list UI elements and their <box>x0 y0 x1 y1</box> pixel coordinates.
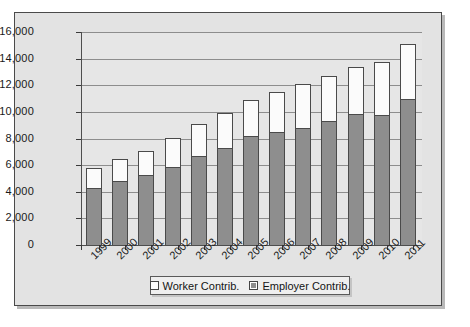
bar-segment-employer[interactable] <box>295 128 311 245</box>
bar-group[interactable] <box>321 76 337 245</box>
bar-group[interactable] <box>112 159 128 245</box>
bar-group[interactable] <box>191 124 207 245</box>
y-axis-tick-label: 10,000 <box>0 105 34 117</box>
bar-group[interactable] <box>138 151 154 245</box>
y-axis-tick-label: 4,000 <box>0 185 34 197</box>
bar-series-container <box>81 32 421 245</box>
legend-item-employer: Employer Contrib. <box>249 280 350 292</box>
bar-group[interactable] <box>165 138 181 245</box>
bar-segment-worker[interactable] <box>191 124 207 156</box>
bar-group[interactable] <box>243 100 259 245</box>
bar-group[interactable] <box>217 113 233 245</box>
bar-group[interactable] <box>348 67 364 245</box>
bar-segment-worker[interactable] <box>295 84 311 128</box>
bar-segment-worker[interactable] <box>112 159 128 181</box>
bar-segment-employer[interactable] <box>348 114 364 245</box>
bar-segment-employer[interactable] <box>217 148 233 245</box>
bar-segment-worker[interactable] <box>86 168 102 189</box>
chart-page: 02,0004,0006,0008,00010,00012,00014,0001… <box>0 0 470 327</box>
chart-frame: 02,0004,0006,0008,00010,00012,00014,0001… <box>14 12 442 306</box>
employer-swatch-icon <box>249 281 258 290</box>
y-axis-tick-label: 14,000 <box>0 52 34 64</box>
legend-label-employer: Employer Contrib. <box>262 280 350 292</box>
bar-segment-worker[interactable] <box>138 151 154 175</box>
bar-segment-worker[interactable] <box>269 92 285 132</box>
y-axis-tick-label: 0 <box>0 238 34 250</box>
bar-segment-worker[interactable] <box>165 138 181 166</box>
chart-legend: Worker Contrib. Employer Contrib. <box>150 276 350 295</box>
bar-segment-employer[interactable] <box>321 121 337 245</box>
bar-segment-employer[interactable] <box>191 156 207 245</box>
y-axis-tick-label: 12,000 <box>0 78 34 90</box>
bar-group[interactable] <box>86 168 102 245</box>
bar-segment-employer[interactable] <box>243 136 259 245</box>
bar-segment-employer[interactable] <box>400 99 416 245</box>
bar-segment-employer[interactable] <box>374 115 390 245</box>
bar-segment-employer[interactable] <box>138 175 154 245</box>
bar-segment-worker[interactable] <box>348 67 364 114</box>
bar-segment-worker[interactable] <box>374 62 390 115</box>
y-axis-tick-label: 2,000 <box>0 211 34 223</box>
bar-group[interactable] <box>400 44 416 245</box>
bar-segment-worker[interactable] <box>321 76 337 121</box>
x-axis-tick-mark <box>81 245 82 250</box>
y-axis-tick-label: 16,000 <box>0 25 34 37</box>
legend-label-worker: Worker Contrib. <box>163 280 240 292</box>
bar-group[interactable] <box>269 92 285 245</box>
bar-segment-employer[interactable] <box>165 167 181 245</box>
bar-segment-worker[interactable] <box>217 113 233 148</box>
y-axis-tick-label: 8,000 <box>0 132 34 144</box>
y-axis-tick-label: 6,000 <box>0 158 34 170</box>
bar-segment-worker[interactable] <box>243 100 259 136</box>
bar-group[interactable] <box>374 62 390 245</box>
bar-segment-employer[interactable] <box>112 181 128 245</box>
bar-segment-worker[interactable] <box>400 44 416 99</box>
worker-swatch-icon <box>150 281 159 290</box>
bar-group[interactable] <box>295 84 311 245</box>
bar-segment-employer[interactable] <box>269 132 285 245</box>
bar-segment-employer[interactable] <box>86 188 102 245</box>
legend-item-worker: Worker Contrib. <box>150 280 240 292</box>
